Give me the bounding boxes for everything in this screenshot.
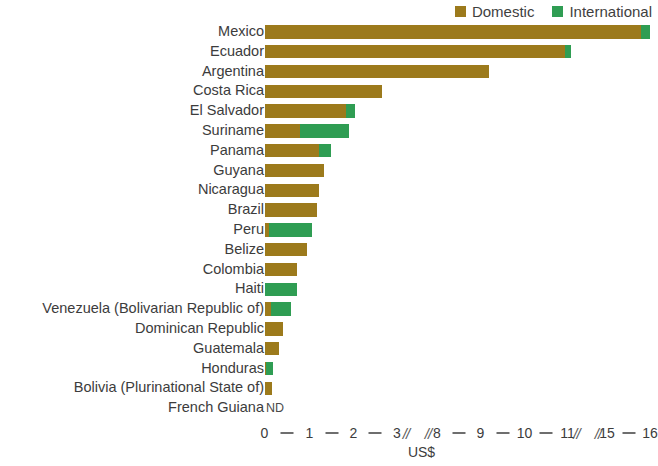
category-label: Honduras <box>201 359 264 379</box>
legend-label-domestic: Domestic <box>472 4 535 19</box>
chart-row: French GuianaND <box>0 398 658 418</box>
category-label: Belize <box>225 240 265 260</box>
legend-swatch-international-icon <box>552 6 563 17</box>
x-axis-tick-label: 8 <box>433 424 441 442</box>
chart-row: Venezuela (Bolivarian Republic of) <box>0 299 658 319</box>
category-label: French Guiana <box>168 398 264 418</box>
bar-segment-domestic <box>265 124 300 137</box>
x-axis-tick-label: 2 <box>350 424 358 442</box>
chart-row: Brazil <box>0 200 658 220</box>
x-axis-tick-dash <box>325 432 338 434</box>
category-label: Nicaragua <box>198 180 264 200</box>
category-label: Argentina <box>202 62 264 82</box>
chart-row: Mexico <box>0 22 658 42</box>
x-axis-tick-dash <box>496 432 509 434</box>
stacked-bar <box>265 302 292 315</box>
stacked-bar <box>265 144 332 157</box>
stacked-bar <box>265 65 490 78</box>
stacked-bar <box>265 362 274 375</box>
category-label: Bolivia (Plurinational State of) <box>74 378 264 398</box>
bar-segment-domestic <box>265 382 273 395</box>
bar-segment-international <box>269 223 312 236</box>
chart-row: Bolivia (Plurinational State of) <box>0 378 658 398</box>
category-label: Mexico <box>218 22 264 42</box>
x-axis-title: US$ <box>408 444 435 460</box>
stacked-bar <box>265 322 283 335</box>
stacked-bar <box>265 124 350 137</box>
chart-row: Colombia <box>0 260 658 280</box>
category-label: Haiti <box>235 279 264 299</box>
chart-row: El Salvador <box>0 101 658 121</box>
x-axis-tick-dash <box>540 432 553 434</box>
chart-row: Ecuador <box>0 42 658 62</box>
bar-segment-domestic <box>265 243 308 256</box>
bar-segment-domestic <box>265 25 642 38</box>
stacked-bar <box>265 45 572 58</box>
x-axis-tick-label: 16 <box>642 424 658 442</box>
x-axis-tick-dash <box>452 432 465 434</box>
x-axis-tick-label: 3 <box>393 424 401 442</box>
chart-row: Guatemala <box>0 339 658 359</box>
bar-segment-international <box>271 302 292 315</box>
category-label: Suriname <box>202 121 264 141</box>
bar-segment-domestic <box>265 203 318 216</box>
x-axis-tick-dash <box>281 432 294 434</box>
bar-segment-domestic <box>265 322 283 335</box>
chart-row: Guyana <box>0 161 658 181</box>
x-axis-tick-label: 15 <box>599 424 615 442</box>
bar-segment-international <box>319 144 331 157</box>
x-axis-break-marker: // <box>573 426 579 442</box>
category-label: Ecuador <box>210 42 264 62</box>
legend-label-international: International <box>569 4 652 19</box>
bar-segment-international <box>641 25 650 38</box>
chart-row: Haiti <box>0 279 658 299</box>
category-label: Dominican Republic <box>135 319 264 339</box>
bar-segment-international <box>565 45 571 58</box>
stacked-bar <box>265 203 318 216</box>
category-label: Brazil <box>228 200 264 220</box>
stacked-bar <box>265 223 313 236</box>
chart-row: Peru <box>0 220 658 240</box>
category-label: Colombia <box>203 260 264 280</box>
chart-row: Belize <box>0 240 658 260</box>
x-axis-tick-dash <box>369 432 382 434</box>
legend-item-international: International <box>552 4 652 19</box>
category-label: Guyana <box>213 161 264 181</box>
x-axis-break-marker: // <box>595 426 601 442</box>
stacked-bar <box>265 283 297 296</box>
x-axis-tick-label: 10 <box>517 424 533 442</box>
stacked-bar <box>265 243 308 256</box>
chart-row: Costa Rica <box>0 81 658 101</box>
bar-segment-international <box>266 362 273 375</box>
chart-row: Suriname <box>0 121 658 141</box>
bar-segment-domestic <box>265 342 280 355</box>
legend-item-domestic: Domestic <box>455 4 535 19</box>
chart-row: Honduras <box>0 359 658 379</box>
x-axis-tick-label: 1 <box>306 424 314 442</box>
bar-segment-domestic <box>265 164 324 177</box>
legend-swatch-domestic-icon <box>455 6 466 17</box>
bar-segment-international <box>265 283 297 296</box>
x-axis-title-wrap: US$ <box>0 444 658 460</box>
x-axis-tick-label: 9 <box>477 424 485 442</box>
category-label: Peru <box>233 220 264 240</box>
category-label: Panama <box>210 141 264 161</box>
x-axis-break-marker: // <box>425 426 431 442</box>
chart-row: Nicaragua <box>0 180 658 200</box>
stacked-bar-chart: Domestic International MexicoEcuadorArge… <box>0 0 658 466</box>
chart-row: Dominican Republic <box>0 319 658 339</box>
stacked-bar <box>265 164 324 177</box>
bar-segment-domestic <box>265 263 297 276</box>
chart-row: Argentina <box>0 62 658 82</box>
bar-segment-domestic <box>265 104 346 117</box>
bar-segment-international <box>346 104 356 117</box>
stacked-bar <box>265 25 651 38</box>
plot-area: MexicoEcuadorArgentinaCosta RicaEl Salva… <box>0 22 658 422</box>
stacked-bar <box>265 382 273 395</box>
stacked-bar <box>265 184 320 197</box>
stacked-bar <box>265 85 382 98</box>
bar-segment-domestic <box>265 65 490 78</box>
x-axis: 01238910111516//////// <box>0 424 658 446</box>
stacked-bar <box>265 342 280 355</box>
bar-segment-domestic <box>265 144 320 157</box>
